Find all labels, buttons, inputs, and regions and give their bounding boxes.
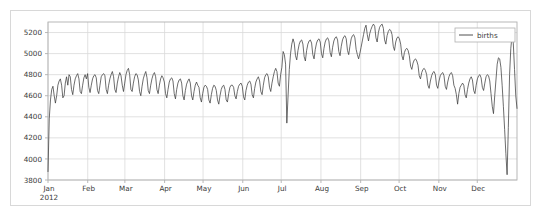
legend[interactable]: births: [455, 28, 515, 42]
plot-frame: [48, 22, 517, 180]
births-chart-figure: 38004000420044004600480050005200 Jan2012…: [0, 0, 543, 220]
y-tick-label-5000: 5000: [24, 49, 43, 58]
x-axis-tick-labels: Jan2012FebMarAprMayJunJulAugSepOctNovDec: [40, 180, 485, 202]
legend-label-births: births: [477, 31, 498, 40]
x-tick-label-jan: Jan: [42, 184, 54, 193]
series-births-line: [48, 24, 517, 175]
gridlines: [48, 22, 517, 180]
y-axis-tick-labels: 38004000420044004600480050005200: [24, 28, 48, 184]
y-tick-label-4800: 4800: [24, 70, 43, 79]
y-tick-label-4600: 4600: [24, 91, 43, 100]
plot-box: [48, 22, 517, 180]
x-tick-label-nov: Nov: [433, 184, 448, 193]
line-births: [48, 24, 517, 175]
y-tick-label-4000: 4000: [24, 155, 43, 164]
x-axis-year-label: 2012: [40, 193, 58, 202]
x-tick-label-dec: Dec: [471, 184, 485, 193]
x-tick-label-jun: Jun: [237, 184, 249, 193]
y-tick-label-5200: 5200: [24, 28, 43, 37]
y-tick-label-4400: 4400: [24, 112, 43, 121]
x-tick-label-jul: Jul: [277, 184, 287, 193]
x-tick-label-aug: Aug: [315, 184, 329, 193]
x-tick-label-apr: Apr: [159, 184, 171, 193]
x-tick-label-sep: Sep: [355, 184, 369, 193]
x-tick-label-feb: Feb: [82, 184, 95, 193]
y-tick-label-3800: 3800: [24, 176, 43, 185]
chart-canvas: 38004000420044004600480050005200 Jan2012…: [0, 0, 543, 220]
x-tick-label-mar: Mar: [119, 184, 133, 193]
y-tick-label-4200: 4200: [24, 133, 43, 142]
x-tick-label-may: May: [197, 184, 213, 193]
x-tick-label-oct: Oct: [394, 184, 407, 193]
